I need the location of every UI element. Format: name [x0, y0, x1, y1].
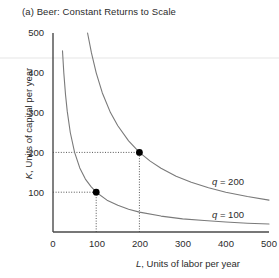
- markers-group: [93, 149, 143, 196]
- isoquant-curve-100: [63, 51, 270, 224]
- point-q100[interactable]: [93, 189, 100, 196]
- curves-group: [63, 33, 270, 224]
- plot-canvas: [0, 0, 279, 278]
- axes-group: [53, 33, 269, 232]
- isoquant-figure: (a) Beer: Constant Returns to Scale K, U…: [0, 0, 279, 278]
- point-q200[interactable]: [136, 149, 143, 156]
- isoquant-curve-200: [88, 33, 269, 200]
